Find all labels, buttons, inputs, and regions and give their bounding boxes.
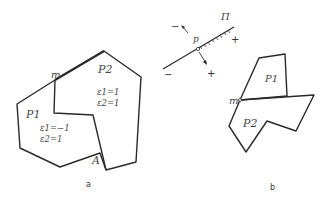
sign-lower-left: −: [164, 69, 172, 80]
caption-a: a: [86, 180, 91, 189]
P1-eps1: ε1=−1: [40, 123, 70, 133]
sign-upper-right: +: [231, 34, 239, 45]
point-m-label-a: m: [51, 69, 60, 80]
top-edge-bold: [55, 51, 104, 80]
region-P1-label-a: P1: [25, 108, 40, 121]
sign-upper-left: −: [171, 21, 179, 32]
point-p-marker: [196, 47, 199, 50]
P1-eps2: ε2=1: [40, 134, 63, 144]
point-m-marker-b: [239, 99, 242, 102]
polygon-P1-b: [240, 54, 287, 100]
figure-b-polygons: [229, 54, 314, 152]
diagram-canvas: m A P1 ε1=−1 ε2=1 P2 ε1=1 ε2=1 a Π p − +…: [0, 0, 327, 201]
sign-lower-right: +: [207, 68, 215, 79]
arrow-head-down-icon: [203, 60, 207, 65]
P2-eps1: ε1=1: [97, 87, 120, 97]
hatching: [200, 30, 230, 49]
point-m-label-b: m: [229, 95, 238, 106]
region-P1-label-b: P1: [264, 73, 278, 84]
P2-eps2: ε2=1: [97, 98, 120, 108]
region-P2-label-a: P2: [97, 63, 112, 76]
polygon-P2-b: [229, 95, 314, 152]
region-P2-label-b: P2: [242, 117, 257, 130]
caption-b: b: [270, 183, 275, 192]
point-A-label: A: [91, 154, 100, 167]
line-pi-label: Π: [220, 11, 230, 22]
point-p-label: p: [193, 34, 199, 44]
